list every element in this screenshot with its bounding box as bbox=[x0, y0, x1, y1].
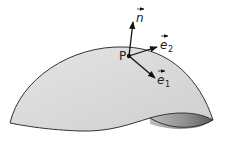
svg-text:n: n bbox=[136, 11, 144, 25]
svg-text:e: e bbox=[157, 73, 164, 87]
svg-text:1: 1 bbox=[165, 80, 170, 89]
point-p bbox=[127, 54, 131, 58]
svg-text:2: 2 bbox=[168, 45, 173, 54]
surface-diagram: P n e 2 e 1 bbox=[0, 0, 226, 145]
svg-text:e: e bbox=[160, 38, 167, 52]
normal-label: n bbox=[136, 9, 144, 25]
e2-label: e 2 bbox=[160, 36, 173, 54]
point-p-label: P bbox=[119, 49, 126, 63]
